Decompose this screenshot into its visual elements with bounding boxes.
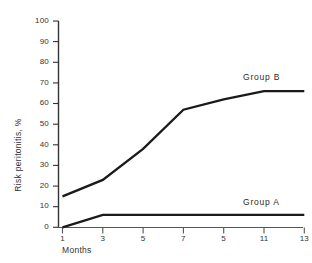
y-tick-label: 0: [27, 222, 49, 231]
y-tick-label: 50: [27, 119, 49, 128]
y-tick-marks: [53, 21, 59, 227]
x-tick-label: 3: [93, 234, 113, 243]
y-tick-label: 30: [27, 160, 49, 169]
y-tick-label: 70: [27, 78, 49, 87]
x-tick-label: 13: [294, 234, 312, 243]
x-axis-title: Months: [62, 245, 92, 255]
line-chart: 100 90 80 70 60 50 40 30 20 10 0 1 3 5 7…: [0, 0, 312, 263]
y-tick-label: 80: [27, 57, 49, 66]
series-label-group-a: Group A: [243, 197, 280, 207]
y-tick-label: 40: [27, 140, 49, 149]
y-tick-label: 60: [27, 98, 49, 107]
y-axis-title: Risk peritonitis, %: [13, 90, 23, 220]
y-tick-label: 90: [27, 37, 49, 46]
series-line-group-b: [63, 91, 305, 196]
x-tick-label: 7: [173, 234, 193, 243]
x-tick-label: 5: [133, 234, 153, 243]
x-tick-marks: [63, 228, 305, 234]
x-tick-label: 5: [214, 234, 234, 243]
y-tick-label: 20: [27, 181, 49, 190]
series-label-group-b: Group B: [243, 72, 280, 82]
series-line-group-a: [63, 215, 305, 227]
x-tick-label: 1: [53, 234, 73, 243]
y-tick-label: 10: [27, 201, 49, 210]
x-tick-label: 11: [254, 234, 274, 243]
y-tick-label: 100: [27, 16, 49, 25]
